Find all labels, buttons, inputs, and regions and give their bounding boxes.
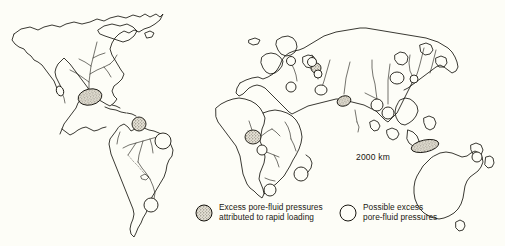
marker-orange-river: [264, 184, 276, 196]
marker-magdalena-caribbean: [132, 117, 146, 131]
marker-mekong: [390, 72, 404, 84]
legend-text-possible-excess: Possible excess pore-fluid pressures: [363, 203, 437, 222]
marker-mississippi-delta: [77, 87, 104, 108]
filled-circle-icon: [194, 203, 214, 223]
marker-huanghe: [410, 75, 418, 83]
world-map-figure: 2000 km Excess pore-fluid pressures: [0, 0, 505, 246]
legend: Excess pore-fluid pressures attributed t…: [0, 200, 505, 240]
legend-item-rapid-loading: Excess pore-fluid pressures attributed t…: [194, 203, 323, 223]
marker-niger-delta: [245, 130, 261, 144]
open-circle-icon: [338, 203, 358, 223]
marker-ganges-brahmaputra: [371, 99, 383, 111]
legend-item-possible-excess: Possible excess pore-fluid pressures: [338, 203, 437, 223]
marker-papua-gulf: [410, 137, 440, 155]
marker-congo-mouth: [257, 145, 267, 155]
marker-caspian-south: [314, 70, 322, 78]
marker-po-delta: [287, 57, 296, 66]
marker-rhone-delta: [286, 82, 296, 92]
scale-annotation: 2000 km: [356, 152, 390, 162]
marker-indus-arabian-sea: [336, 94, 352, 108]
legend-line-2: pore-fluid pressures: [363, 213, 437, 223]
marker-tigris-euphrates: [315, 85, 327, 95]
legend-text-rapid-loading: Excess pore-fluid pressures attributed t…: [219, 203, 323, 222]
marker-irrawaddy: [382, 107, 394, 119]
marker-amazon-mouth: [155, 133, 171, 149]
marker-zambezi-mouth: [294, 167, 308, 181]
legend-line-2: attributed to rapid loading: [219, 213, 323, 223]
eurasia-outline: [236, 28, 458, 146]
marker-north-island-nz: [472, 152, 482, 162]
marker-volga-north: [308, 58, 317, 67]
